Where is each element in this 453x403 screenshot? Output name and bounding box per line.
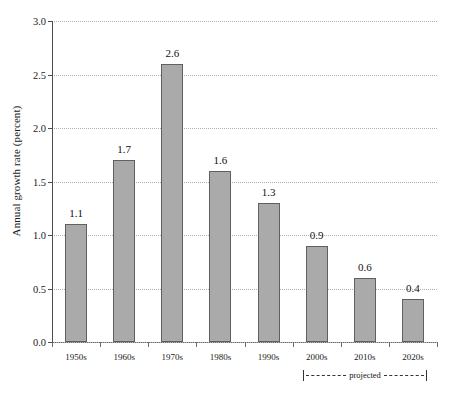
x-axis-category-label: 1980s xyxy=(210,352,232,362)
bar-value-label: 1.3 xyxy=(262,186,276,198)
gridline xyxy=(52,21,437,22)
y-axis-tick-label: 1.0 xyxy=(33,230,46,241)
y-axis-tick-mark xyxy=(48,21,53,22)
x-axis-category-label: 1970s xyxy=(162,352,184,362)
y-axis-tick-label: 0.0 xyxy=(33,337,46,348)
x-axis-tick-mark xyxy=(196,342,197,347)
y-axis-tick-label: 1.5 xyxy=(33,176,46,187)
plot-area: 0.00.51.01.52.02.53.0 1.11.72.61.61.30.9… xyxy=(52,21,437,342)
chart-figure: Annual growth rate (percent) 0.00.51.01.… xyxy=(0,0,453,403)
gridline xyxy=(52,75,437,76)
gridline xyxy=(52,235,437,236)
x-axis-tick-mark xyxy=(389,342,390,347)
x-axis-category-label: 1960s xyxy=(113,352,135,362)
x-axis-category-label: 1990s xyxy=(258,352,280,362)
y-axis-tick-mark xyxy=(48,128,53,129)
bar-value-label: 1.6 xyxy=(214,154,228,166)
gridline xyxy=(52,289,437,290)
y-axis-tick-mark xyxy=(48,235,53,236)
projected-bracket-dash-right xyxy=(384,375,424,376)
bar xyxy=(161,64,183,342)
bar xyxy=(306,246,328,342)
projected-bracket-dash-left xyxy=(306,375,346,376)
x-axis-tick-mark xyxy=(293,342,294,347)
projected-bracket: projected xyxy=(303,368,427,382)
y-axis-title-text: Annual growth rate (percent) xyxy=(10,106,22,237)
y-axis-tick-label: 3.0 xyxy=(33,16,46,27)
bar-value-label: 0.4 xyxy=(406,282,420,294)
gridline xyxy=(52,128,437,129)
y-axis-tick-label: 2.5 xyxy=(33,69,46,80)
x-axis-category-label: 2020s xyxy=(402,352,424,362)
projected-label: projected xyxy=(348,370,382,380)
bar-value-label: 0.9 xyxy=(310,229,324,241)
y-axis-tick-mark xyxy=(48,75,53,76)
projected-bracket-left-cap xyxy=(303,370,304,381)
x-axis-tick-mark xyxy=(437,342,438,347)
y-axis-tick-label: 2.0 xyxy=(33,123,46,134)
y-axis-tick-label: 0.5 xyxy=(33,283,46,294)
y-axis-tick-mark xyxy=(48,182,53,183)
bar xyxy=(65,224,87,342)
x-axis-tick-mark xyxy=(245,342,246,347)
projected-bracket-right-cap xyxy=(426,370,427,381)
bar xyxy=(113,160,135,342)
y-axis-title: Annual growth rate (percent) xyxy=(6,0,26,342)
bar-value-label: 0.6 xyxy=(358,261,372,273)
x-axis-tick-mark xyxy=(148,342,149,347)
bar-value-label: 2.6 xyxy=(165,47,179,59)
bar xyxy=(402,299,424,342)
x-axis-category-label: 2000s xyxy=(306,352,328,362)
y-axis-tick-mark xyxy=(48,289,53,290)
bar xyxy=(209,171,231,342)
bar xyxy=(354,278,376,342)
bar-value-label: 1.7 xyxy=(117,143,131,155)
x-axis-tick-mark xyxy=(341,342,342,347)
x-axis-tick-mark xyxy=(100,342,101,347)
x-axis-category-label: 1950s xyxy=(65,352,87,362)
bar xyxy=(258,203,280,342)
x-axis-category-label: 2010s xyxy=(354,352,376,362)
bar-value-label: 1.1 xyxy=(69,207,83,219)
x-axis-tick-mark xyxy=(52,342,53,347)
gridline xyxy=(52,182,437,183)
